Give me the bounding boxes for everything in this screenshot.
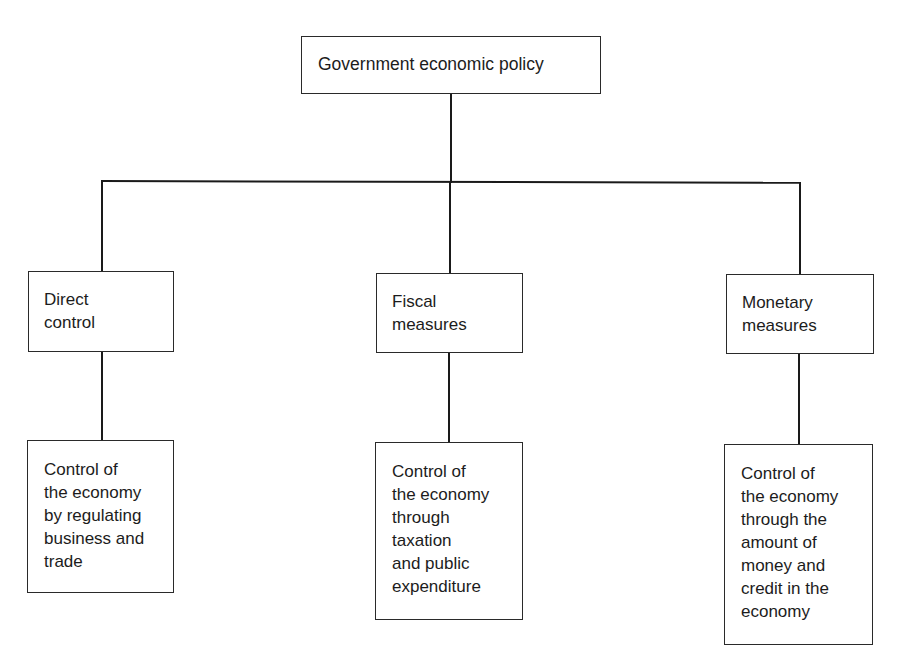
- connector-fiscal-to-description: [448, 352, 450, 443]
- node-fiscal-measures: Fiscal measures: [376, 273, 523, 353]
- connector-to-monetary-measures: [799, 183, 801, 275]
- root-node-label: Government economic policy: [318, 53, 544, 76]
- node-fiscal-measures-label: Fiscal measures: [392, 290, 467, 336]
- connector-monetary-to-description: [798, 353, 800, 445]
- description-fiscal-measures-text: Control of the economy through taxation …: [392, 460, 489, 598]
- root-node-government-economic-policy: Government economic policy: [301, 36, 601, 94]
- description-monetary-measures-text: Control of the economy through the amoun…: [741, 462, 838, 623]
- description-direct-control-text: Control of the economy by regulating bus…: [44, 458, 144, 573]
- node-direct-control: Direct control: [28, 271, 174, 352]
- node-monetary-measures-label: Monetary measures: [742, 291, 817, 337]
- connector-root-down: [450, 93, 452, 183]
- node-direct-control-label: Direct control: [44, 288, 95, 334]
- description-fiscal-measures: Control of the economy through taxation …: [375, 442, 523, 620]
- connector-to-fiscal-measures: [449, 181, 451, 274]
- description-monetary-measures: Control of the economy through the amoun…: [724, 444, 873, 645]
- connector-to-direct-control: [101, 180, 103, 272]
- description-direct-control: Control of the economy by regulating bus…: [27, 440, 174, 593]
- connector-direct-to-description: [101, 351, 103, 441]
- node-monetary-measures: Monetary measures: [726, 274, 874, 354]
